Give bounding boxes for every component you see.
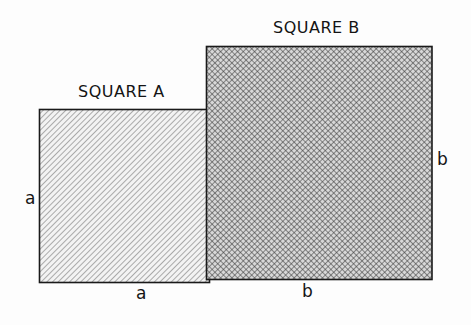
square-a-title: SQUARE A xyxy=(78,84,165,100)
square-a xyxy=(40,110,210,283)
diagram-canvas: SQUARE A SQUARE B a a b b xyxy=(0,0,471,325)
square-b xyxy=(207,47,433,280)
squares-diagram xyxy=(0,0,471,325)
side-label-a-bottom: a xyxy=(136,285,146,302)
side-label-a-left: a xyxy=(25,190,35,207)
square-b-title: SQUARE B xyxy=(273,20,360,36)
side-label-b-right: b xyxy=(437,151,448,168)
side-label-b-bottom: b xyxy=(302,283,313,300)
